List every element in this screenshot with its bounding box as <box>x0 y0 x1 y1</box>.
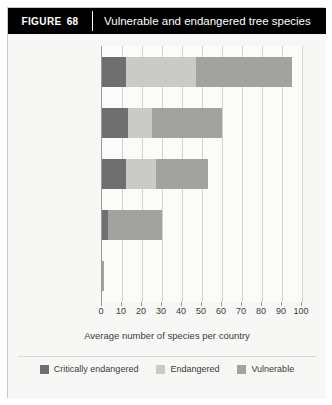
legend-label: Critically endangered <box>54 364 139 374</box>
legend-item: Endangered <box>156 364 219 374</box>
axis-tick-label: 70 <box>236 306 246 316</box>
bar-segment <box>102 159 126 189</box>
bar-segment <box>128 108 152 138</box>
axis-tick-label: 50 <box>196 306 206 316</box>
bar-segment <box>102 57 126 87</box>
bar-row: Latin America andthe Caribbean <box>102 46 302 76</box>
chart-legend: Critically endangeredEndangeredVulnerabl… <box>8 364 326 374</box>
bar-segment <box>102 108 128 138</box>
legend-label: Endangered <box>170 364 219 374</box>
bar-segment <box>126 159 156 189</box>
chart-panel: Latin America andthe CaribbeanAsia andth… <box>8 34 326 399</box>
figure-word: FIGURE <box>21 16 61 27</box>
figure-card: FIGURE 68 Vulnerable and endangered tree… <box>7 7 325 398</box>
figure-tag: FIGURE 68 <box>8 8 92 34</box>
bar-row: Asia andthe Pacific <box>102 97 302 127</box>
x-axis: 0102030405060708090100 <box>101 302 303 310</box>
axis-tick-label: 10 <box>116 306 126 316</box>
bar-row: Europe <box>102 251 302 281</box>
stacked-bar <box>102 210 162 240</box>
axis-tick-label: 0 <box>98 306 103 316</box>
plot-area: Latin America andthe CaribbeanAsia andth… <box>101 46 303 302</box>
bar-row: North America <box>102 148 302 178</box>
bar-segment <box>126 57 196 87</box>
legend-swatch <box>40 365 49 374</box>
legend-item: Vulnerable <box>237 364 294 374</box>
bar-segment <box>102 261 104 291</box>
legend-label: Vulnerable <box>251 364 294 374</box>
stacked-bar <box>102 159 208 189</box>
figure-number: 68 <box>67 16 79 27</box>
bar-segment <box>196 57 292 87</box>
axis-tick-label: 20 <box>136 306 146 316</box>
figure-header: FIGURE 68 Vulnerable and endangered tree… <box>8 8 326 34</box>
stacked-bar <box>102 57 292 87</box>
gridline <box>302 46 303 302</box>
bar-segment <box>108 210 162 240</box>
x-axis-title: Average number of species per country <box>8 330 326 341</box>
legend-item: Critically endangered <box>40 364 139 374</box>
stacked-bar <box>102 261 104 291</box>
axis-tick-label: 90 <box>276 306 286 316</box>
axis-tick-label: 60 <box>216 306 226 316</box>
axis-tick-label: 40 <box>176 306 186 316</box>
axis-tick-label: 80 <box>256 306 266 316</box>
axis-tick-label: 100 <box>293 306 308 316</box>
legend-divider <box>18 356 316 357</box>
bar-row: Africa <box>102 200 302 230</box>
legend-swatch <box>237 365 246 374</box>
bar-segment <box>152 108 222 138</box>
stacked-bar <box>102 108 222 138</box>
legend-swatch <box>156 365 165 374</box>
figure-title: Vulnerable and endangered tree species <box>93 8 326 34</box>
axis-tick-label: 30 <box>156 306 166 316</box>
bar-segment <box>156 159 208 189</box>
